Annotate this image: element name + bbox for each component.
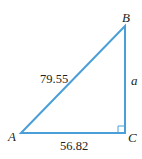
vertex-label-b: B: [122, 10, 130, 25]
vertex-label-a: A: [7, 129, 16, 144]
triangle-shape: [21, 26, 125, 133]
hypotenuse-length-label: 79.55: [40, 72, 68, 86]
leg-variable-label: a: [131, 73, 138, 88]
vertex-label-c: C: [128, 130, 137, 145]
base-length-label: 56.82: [60, 139, 88, 153]
triangle-diagram: B A C 79.55 56.82 a: [0, 0, 142, 159]
right-angle-marker: [118, 126, 125, 133]
